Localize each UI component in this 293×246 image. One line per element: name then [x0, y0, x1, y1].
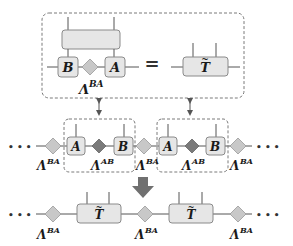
lambda-ba-superscript: BA: [144, 225, 158, 235]
tensor-b-label: B: [62, 60, 74, 75]
middle-chain: • • • Λ BA A Λ AB B Λ BA A Λ AB B Λ: [8, 119, 280, 173]
lambda-ba-diamond: [230, 206, 246, 222]
lambda-ba-superscript: BA: [46, 225, 60, 235]
tensor-network-diagram: B A Λ BA = T ~ • • • Λ BA A Λ AB: [0, 0, 293, 246]
tilde-mark: ~: [188, 202, 195, 212]
equals-sign: =: [144, 53, 159, 74]
tensor-a-label: A: [162, 140, 172, 154]
lambda-ba-label: Λ: [135, 159, 145, 173]
contracted-tensor-block: [62, 30, 120, 49]
tensor-a-label: A: [70, 140, 80, 154]
ellipsis-left: • • •: [8, 210, 32, 220]
transform-down-arrow: [132, 177, 154, 198]
equation-dashed-box: [42, 13, 244, 98]
lambda-ab-label: Λ: [181, 159, 191, 173]
lambda-ba-diamond: [136, 138, 152, 154]
lambda-ba-diamond: [82, 59, 98, 75]
lambda-ab-superscript: AB: [100, 156, 114, 166]
ellipsis-right: • • •: [256, 142, 280, 152]
lambda-ba-diamond: [45, 206, 61, 222]
tilde-mark: ~: [96, 202, 103, 212]
lambda-ba-superscript: BA: [145, 156, 159, 166]
lambda-ab-superscript: AB: [191, 156, 205, 166]
lambda-ba-superscript: BA: [46, 156, 60, 166]
lambda-ba-superscript: BA: [239, 156, 253, 166]
lambda-ba-label: Λ: [134, 228, 144, 242]
tilde-mark: ~: [201, 54, 209, 64]
tensor-b-label: B: [209, 140, 220, 154]
lambda-ba-label: Λ: [229, 159, 239, 173]
equation-right-network: T ~: [171, 43, 240, 76]
lambda-ab-label: Λ: [90, 159, 100, 173]
lambda-ba-label: Λ: [229, 228, 239, 242]
equation-left-network: B A Λ BA: [47, 17, 139, 97]
tensor-b-label: B: [117, 140, 128, 154]
ellipsis-right: • • •: [256, 210, 280, 220]
bottom-chain: • • • Λ BA T ~ Λ BA T ~ Λ BA • • •: [8, 192, 280, 242]
lambda-ba-diamond: [230, 138, 246, 154]
lambda-ba-superscript: BA: [88, 79, 104, 89]
lambda-ab-diamond: [92, 139, 106, 153]
lambda-ba-label: Λ: [77, 82, 89, 97]
lambda-ba-label: Λ: [36, 228, 46, 242]
lambda-ba-diamond: [45, 138, 61, 154]
lambda-ba-superscript: BA: [239, 225, 253, 235]
lambda-ba-diamond: [137, 206, 153, 222]
lambda-ab-diamond: [185, 139, 199, 153]
lambda-ba-label: Λ: [36, 159, 46, 173]
tensor-a-label: A: [108, 60, 120, 75]
ellipsis-left: • • •: [8, 142, 32, 152]
